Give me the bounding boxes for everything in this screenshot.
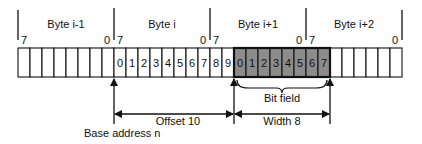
offset-bit-number: 3 [153, 57, 159, 69]
bit-field-diagram: Byte i-1 Byte i Byte i+1 Byte i+2 7 0 7 … [0, 0, 422, 144]
offset-bit-number: 1 [129, 57, 135, 69]
bit-cell [366, 48, 378, 77]
bit-cell [330, 48, 342, 77]
offset-bit-number: 7 [201, 57, 207, 69]
msb-label: 7 [213, 34, 219, 46]
lsb-label: 0 [200, 34, 206, 46]
byte-label-i: Byte i [148, 18, 176, 30]
bit-cell [354, 48, 366, 77]
offset-bit-number: 2 [141, 57, 147, 69]
msb-label: 7 [21, 34, 27, 46]
offset-bit-number: 4 [165, 57, 171, 69]
bit-cell [42, 48, 54, 77]
field-bit-number: 4 [285, 57, 291, 69]
bit-cell [102, 48, 114, 77]
bit-cell [54, 48, 66, 77]
bit-cell [30, 48, 42, 77]
base-address-label: Base address n [84, 127, 160, 139]
lsb-label: 0 [392, 34, 398, 46]
offset-bit-number: 8 [213, 57, 219, 69]
bit-cell [66, 48, 78, 77]
bit-cells: 012345678901234567 [18, 48, 402, 77]
bit-cell [18, 48, 30, 77]
lsb-label: 0 [296, 34, 302, 46]
field-bit-number: 5 [297, 57, 303, 69]
offset-bit-number: 6 [189, 57, 195, 69]
field-bit-number: 6 [309, 57, 315, 69]
offset-label: Offset 10 [156, 115, 200, 127]
byte-label-i-minus-1: Byte i-1 [47, 18, 84, 30]
width-label: Width 8 [263, 115, 300, 127]
field-bit-number: 2 [261, 57, 267, 69]
field-bit-number: 0 [237, 57, 243, 69]
lsb-label: 0 [104, 34, 110, 46]
bit-cell [378, 48, 390, 77]
byte-label-i-plus-2: Byte i+2 [334, 18, 374, 30]
offset-bit-number: 5 [177, 57, 183, 69]
bit-cell [90, 48, 102, 77]
offset-bit-number: 9 [225, 57, 231, 69]
bit-cell [390, 48, 402, 77]
bit-cell [78, 48, 90, 77]
byte-label-i-plus-1: Byte i+1 [238, 18, 278, 30]
field-bit-number: 3 [273, 57, 279, 69]
bit-cell [342, 48, 354, 77]
bit-field-label: Bit field [264, 92, 300, 104]
field-bit-number: 7 [321, 57, 327, 69]
msb-label: 7 [309, 34, 315, 46]
offset-bit-number: 0 [117, 57, 123, 69]
field-bit-number: 1 [249, 57, 255, 69]
msb-label: 7 [117, 34, 123, 46]
